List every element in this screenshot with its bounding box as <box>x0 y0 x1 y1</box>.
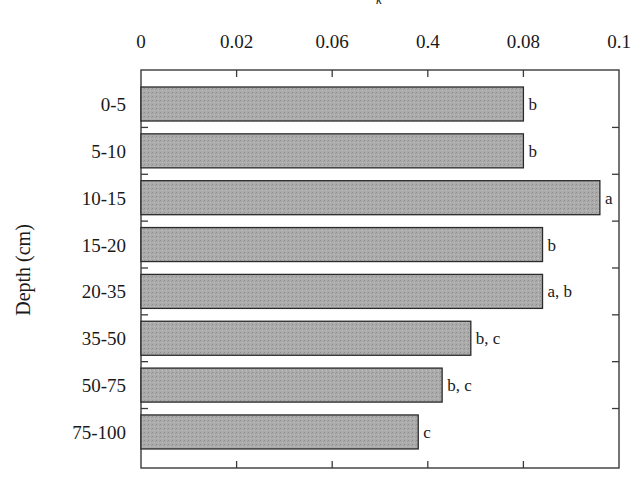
bar-group: b <box>141 134 537 168</box>
x-axis-tick-labels: 00.020.060.40.080.1 <box>136 31 631 52</box>
bar-group: b, c <box>141 321 501 355</box>
x-tick-label: 0.06 <box>316 31 349 52</box>
significance-letter: b, c <box>447 376 472 395</box>
top-axis-title-fragment: k <box>376 0 382 7</box>
bar <box>141 181 600 215</box>
bar <box>141 87 523 121</box>
bar-group: b <box>141 87 537 121</box>
axis-ticks <box>141 70 619 468</box>
x-tick-label: 0.02 <box>220 31 253 52</box>
x-tick-label: 0.1 <box>607 31 631 52</box>
bar-group: c <box>141 415 431 449</box>
category-label: 50-75 <box>82 375 126 396</box>
bar-chart: k 00.020.060.40.080.1 bbaba, bb, cb, cc … <box>0 0 638 487</box>
bar <box>141 134 523 168</box>
bars: bbaba, bb, cb, cc <box>141 87 613 449</box>
bar <box>141 368 442 402</box>
x-tick-label: 0.08 <box>507 31 540 52</box>
bar-group: b <box>141 228 556 262</box>
category-label: 35-50 <box>82 328 126 349</box>
bar-group: a, b <box>141 274 572 308</box>
plot-frame <box>141 70 619 468</box>
y-axis-category-labels: 0-55-1010-1515-2020-3535-5050-7575-100 <box>72 94 126 443</box>
significance-letter: b, c <box>476 329 501 348</box>
x-tick-label: 0.4 <box>416 31 440 52</box>
bar-group: a <box>141 181 613 215</box>
bar <box>141 274 543 308</box>
significance-letter: b <box>548 236 557 255</box>
category-label: 15-20 <box>82 235 126 256</box>
significance-letter: b <box>528 95 537 114</box>
category-label: 75-100 <box>72 422 126 443</box>
category-label: 10-15 <box>82 188 126 209</box>
significance-letter: c <box>423 423 431 442</box>
significance-letter: b <box>528 142 537 161</box>
significance-letter: a, b <box>548 282 573 301</box>
bar <box>141 415 418 449</box>
category-label: 20-35 <box>82 281 126 302</box>
x-tick-label: 0 <box>136 31 146 52</box>
bar-group: b, c <box>141 368 472 402</box>
bar <box>141 228 543 262</box>
category-label: 5-10 <box>91 141 126 162</box>
y-axis-title: Depth (cm) <box>12 224 35 316</box>
bar <box>141 321 471 355</box>
category-label: 0-5 <box>101 94 126 115</box>
significance-letter: a <box>605 189 613 208</box>
